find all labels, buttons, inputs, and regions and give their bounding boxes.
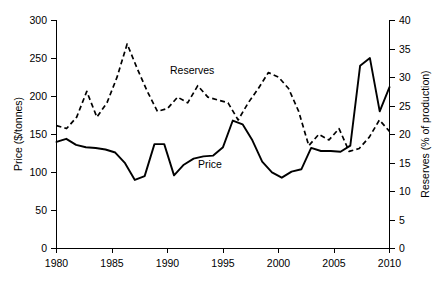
y-tick-label-0: 0: [41, 242, 47, 254]
y2-tick-label-20: 20: [399, 128, 411, 140]
chart-canvas: 300 250 200 150 100 50 0 40 35 30 25 20 …: [0, 0, 447, 290]
y2-tick-label-10: 10: [399, 185, 411, 197]
y2-tick-label-5: 5: [399, 214, 405, 226]
chart-container: 300 250 200 150 100 50 0 40 35 30 25 20 …: [0, 0, 447, 290]
y-tick-label-50: 50: [35, 204, 47, 216]
x-tick-label-2010: 2010: [378, 257, 402, 269]
y2-tick-label-25: 25: [399, 100, 411, 112]
y2-axis-title: Reserves (% of production): [419, 70, 431, 197]
y2-tick-label-40: 40: [399, 14, 411, 26]
x-tick-label-2005: 2005: [322, 257, 346, 269]
y2-tick-label-15: 15: [399, 157, 411, 169]
y-tick-label-150: 150: [29, 128, 47, 140]
series-annotation-reserves: Reserves: [170, 64, 214, 76]
y2-tick-label-0: 0: [399, 242, 405, 254]
series-annotation-price: Price: [198, 158, 222, 170]
y-tick-label-100: 100: [29, 166, 47, 178]
x-tick-label-1995: 1995: [211, 257, 235, 269]
y2-tick-label-30: 30: [399, 71, 411, 83]
y-tick-label-300: 300: [29, 14, 47, 26]
x-tick-label-1990: 1990: [156, 257, 180, 269]
y-axis-title: Price ($/tonnes): [12, 97, 24, 171]
x-tick-label-2000: 2000: [267, 257, 291, 269]
y-tick-label-250: 250: [29, 52, 47, 64]
y-tick-label-200: 200: [29, 90, 47, 102]
y2-tick-label-35: 35: [399, 43, 411, 55]
x-tick-label-1980: 1980: [45, 257, 69, 269]
x-tick-label-1985: 1985: [100, 257, 124, 269]
